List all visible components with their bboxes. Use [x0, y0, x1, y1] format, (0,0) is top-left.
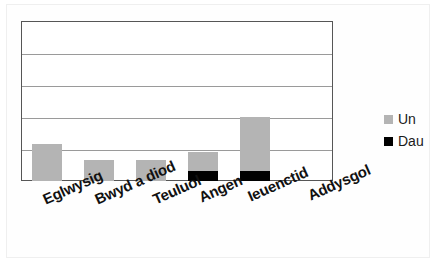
x-axis-label-ieuenctid: Ieuenctid: [245, 163, 310, 205]
stacked-bar-chart: Eglwysig Bwyd a diod Teuluol Angen Ieuen…: [0, 0, 447, 272]
x-axis-label-addysgol: Addysgol: [305, 161, 373, 204]
legend-label-un: Un: [398, 112, 416, 126]
chart-legend: Un Dau: [384, 108, 442, 152]
legend-swatch-un: [384, 115, 393, 124]
legend-item-dau[interactable]: Dau: [384, 130, 442, 152]
legend-item-un[interactable]: Un: [384, 108, 442, 130]
x-axis-labels: Eglwysig Bwyd a diod Teuluol Angen Ieuen…: [0, 0, 447, 272]
legend-label-dau: Dau: [398, 134, 424, 148]
x-axis-label-angen: Angen: [196, 171, 245, 205]
legend-swatch-dau: [384, 137, 393, 146]
x-axis-label-eglwysig: Eglwysig: [40, 166, 105, 207]
